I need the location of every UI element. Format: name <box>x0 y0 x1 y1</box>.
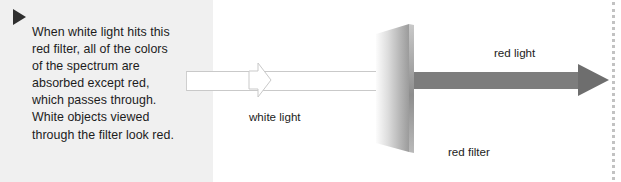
caption-text: When white light hits this red filter, a… <box>32 24 207 144</box>
caption-line: When white light hits this <box>32 24 207 41</box>
figure-canvas: When white light hits this red filter, a… <box>0 0 621 182</box>
caption-panel: When white light hits this red filter, a… <box>0 0 213 182</box>
caption-line: which passes through. <box>32 92 207 109</box>
caption-line: White objects viewed <box>32 109 207 126</box>
white-light-beam <box>186 71 407 91</box>
dotted-divider <box>612 2 615 180</box>
caption-line: red filter, all of the colors <box>32 41 207 58</box>
red-filter-panel <box>376 18 418 158</box>
play-triangle-icon <box>13 9 26 25</box>
label-red-filter: red filter <box>448 145 490 158</box>
caption-line: of the spectrum are <box>32 58 207 75</box>
caption-line: through the filter look red. <box>32 127 207 144</box>
red-light-beam <box>414 72 586 89</box>
label-red-light: red light <box>494 46 535 59</box>
caption-line: absorbed except red, <box>32 75 207 92</box>
white-light-arrowhead-icon <box>248 62 272 98</box>
red-light-arrowhead-icon <box>578 64 609 96</box>
label-white-light: white light <box>249 110 301 123</box>
